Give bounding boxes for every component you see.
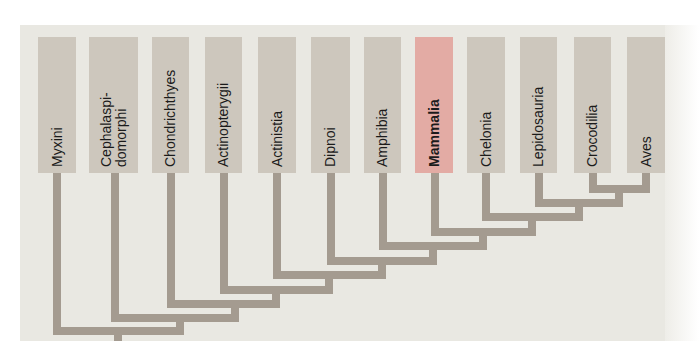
taxon-box-lepidosauria: Lepidosauria: [520, 37, 557, 173]
taxon-label: Aves: [639, 136, 654, 167]
taxon-label: Crocodilia: [585, 105, 600, 167]
taxon-label: Myxini: [50, 127, 65, 167]
taxon-box-crocodilia: Crocodilia: [574, 37, 611, 173]
taxon-box-mammalia: Mammalia: [415, 37, 453, 173]
taxon-box-aves: Aves: [627, 37, 665, 173]
taxon-box-amphibia: Amphibia: [364, 37, 401, 173]
taxon-box-chelonia: Chelonia: [467, 37, 505, 173]
taxon-box-dipnoi: Dipnoi: [311, 37, 350, 173]
taxon-box-actinopterygii: Actinopterygii: [205, 37, 242, 173]
taxon-box-chondrichthyes: Chondrichthyes: [152, 37, 189, 173]
taxon-box-actinistia: Actinistia: [258, 37, 296, 173]
taxon-label: Actinistia: [270, 111, 285, 167]
taxon-box-cephalaspidomorphi: Cephalaspi-domorphi: [89, 37, 138, 173]
branch-crocodilia-aves: [593, 173, 646, 189]
taxon-label: Chelonia: [479, 112, 494, 167]
taxon-label: Mammalia: [427, 99, 442, 167]
taxon-label: Cephalaspi-domorphi: [99, 92, 128, 167]
taxon-label: Dipnoi: [323, 127, 338, 167]
taxon-label: Actinopterygii: [216, 83, 231, 167]
taxon-label: Amphibia: [375, 109, 390, 167]
taxon-label: Chondrichthyes: [163, 70, 178, 167]
taxon-label: Lepidosauria: [531, 87, 546, 167]
taxon-box-myxini: Myxini: [38, 37, 76, 173]
branch-chelonia: [486, 173, 579, 217]
